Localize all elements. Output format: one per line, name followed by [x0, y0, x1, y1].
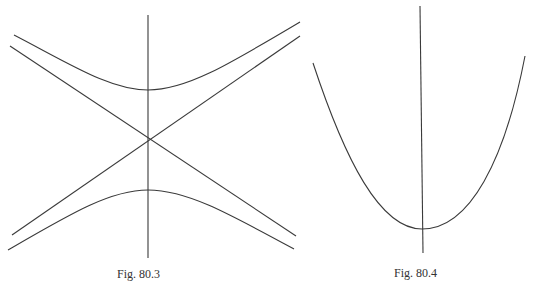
caption-fig-80-4: Fig. 80.4 — [394, 266, 437, 281]
parabola-curve — [313, 56, 525, 229]
asymptote-descending — [10, 46, 296, 236]
figure-parabola — [313, 6, 525, 253]
hyperbola-lower-branch — [8, 190, 294, 250]
figure-hyperbola — [8, 15, 300, 258]
hyperbola-upper-branch — [14, 22, 300, 90]
caption-fig-80-3: Fig. 80.3 — [117, 267, 160, 282]
parabola-axis — [420, 6, 423, 253]
asymptote-ascending — [12, 36, 300, 235]
figure-canvas — [0, 0, 533, 293]
